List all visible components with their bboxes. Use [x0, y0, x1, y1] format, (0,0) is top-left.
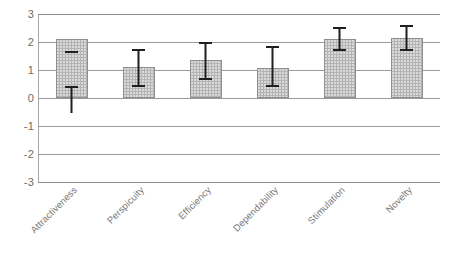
y-tick-label: -3	[4, 177, 34, 188]
y-tick-label: -2	[4, 149, 34, 160]
error-bar-cap-lower	[333, 49, 346, 51]
y-tick-label: 3	[4, 9, 34, 20]
x-label-slot: Stimulation	[306, 183, 373, 256]
x-label-slot: Attractiveness	[38, 183, 105, 256]
x-axis-category-labels: Attractiveness Perspicuity Efficiency De…	[38, 183, 440, 256]
x-label-efficiency: Efficiency	[176, 185, 212, 221]
y-tick-label: -1	[4, 121, 34, 132]
error-bar-line	[406, 25, 408, 49]
error-bar-line	[71, 86, 73, 113]
bar-slot	[239, 14, 306, 182]
error-bar-cap-lower	[132, 85, 145, 87]
x-label-slot: Dependability	[239, 183, 306, 256]
y-tick-label: 1	[4, 65, 34, 76]
error-bar-dependability	[266, 14, 279, 182]
x-label-attractiveness: Attractiveness	[28, 185, 78, 235]
error-bar-line	[205, 42, 207, 78]
x-label-stimulation: Stimulation	[305, 185, 346, 226]
bar-chart-with-error-bars: 3 2 1 0 -1 -2 -3	[0, 0, 460, 256]
bar-slot	[373, 14, 440, 182]
error-bar-novelty	[400, 14, 413, 182]
bar-slot	[306, 14, 373, 182]
x-label-dependability: Dependability	[231, 185, 280, 234]
bar-slot	[38, 14, 105, 182]
error-bar-line	[138, 49, 140, 85]
x-label-slot: Efficiency	[172, 183, 239, 256]
bar-slot	[105, 14, 172, 182]
error-bar-line	[272, 46, 274, 85]
y-tick-label: 0	[4, 93, 34, 104]
error-bar-perspicuity	[132, 14, 145, 182]
error-bar-efficiency	[199, 14, 212, 182]
error-bar-cap-lower	[400, 49, 413, 51]
x-label-slot: Novelty	[373, 183, 440, 256]
bar-slot	[172, 14, 239, 182]
error-bar-cap-lower	[266, 85, 279, 87]
error-bar-attractiveness	[65, 14, 78, 182]
x-label-novelty: Novelty	[384, 185, 414, 215]
error-bar-cap-lower	[199, 78, 212, 80]
x-label-slot: Perspicuity	[105, 183, 172, 256]
error-bar-stimulation	[333, 14, 346, 182]
y-tick-label: 2	[4, 37, 34, 48]
error-bar-cap-lower	[65, 51, 78, 53]
plot-area	[38, 14, 440, 182]
x-label-perspicuity: Perspicuity	[105, 185, 146, 226]
error-bar-line	[339, 27, 341, 49]
y-axis-tick-labels: 3 2 1 0 -1 -2 -3	[0, 0, 34, 256]
